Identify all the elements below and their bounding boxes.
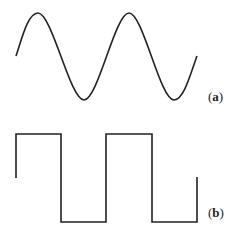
square-wave xyxy=(16,134,197,222)
label-letter-b: b xyxy=(212,205,219,220)
label-paren-close: ) xyxy=(220,205,224,220)
panel-label-b: (b) xyxy=(208,205,224,221)
panel-label-a: (a) xyxy=(208,89,223,105)
label-paren-close: ) xyxy=(219,89,223,104)
sine-wave xyxy=(16,13,197,100)
waveform-figure xyxy=(0,0,237,234)
